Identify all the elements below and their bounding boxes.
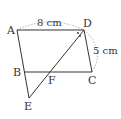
label-f: F [48,74,56,87]
segment-de [29,30,84,98]
dimension-label-ad: 8 cm [37,17,62,28]
dimension-label-dc: 5 cm [93,45,118,56]
label-a: A [6,24,16,37]
label-d: D [83,17,92,30]
label-e: E [24,100,32,113]
parallelogram-diagram: A D B C F E 8 cm 5 cm [0,0,121,119]
side-dc [84,30,92,72]
side-ab-extended-to-e [17,30,29,98]
label-b: B [13,66,21,79]
angle-mark-dot [77,32,79,34]
label-c: C [88,74,96,87]
angle-mark-dot [79,35,81,37]
